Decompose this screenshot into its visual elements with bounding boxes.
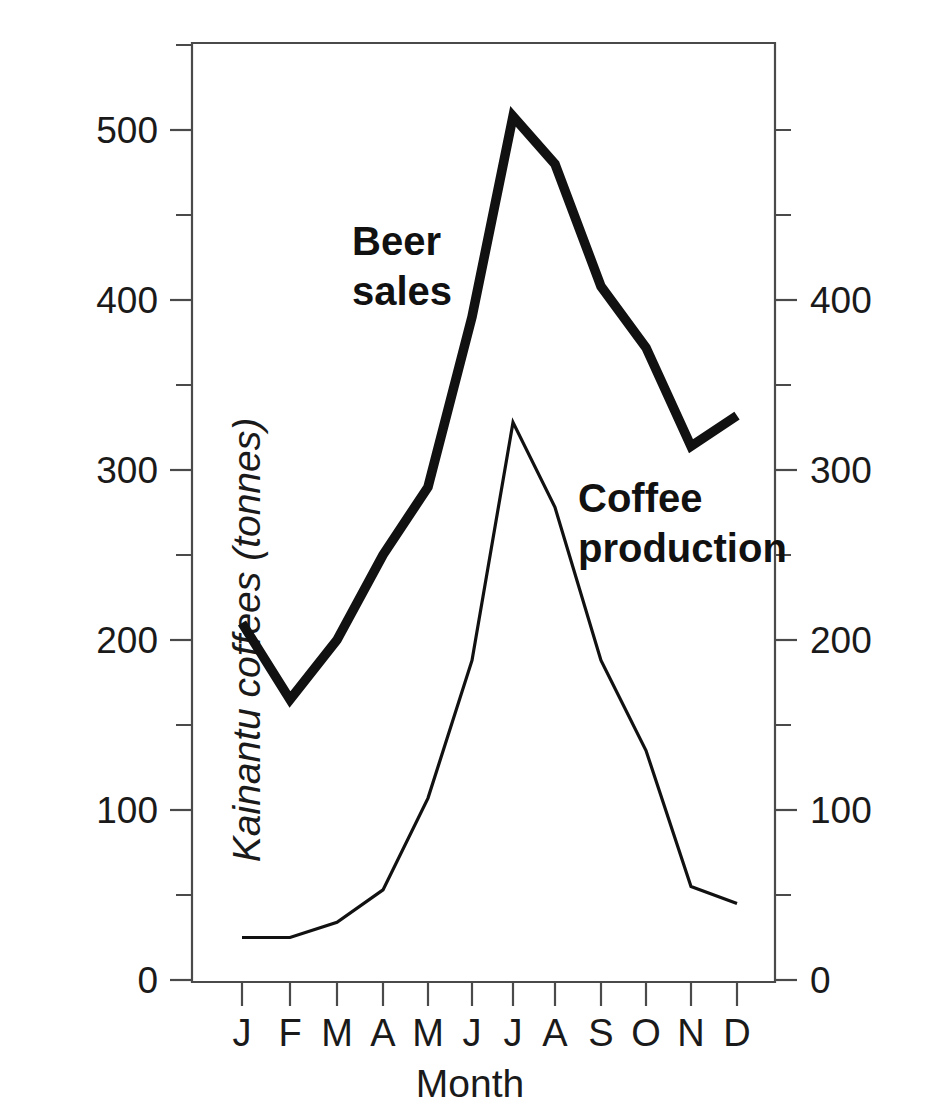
month-label-dec: D <box>723 1012 750 1054</box>
x-axis-month-labels: J F M A M J J A S O N D <box>233 1012 751 1054</box>
left-axis-ticks <box>170 45 192 980</box>
annotation-beer-sales: Beer sales <box>352 219 452 313</box>
right-tick-label-300: 300 <box>810 450 872 491</box>
left-tick-label-200: 200 <box>96 620 158 661</box>
left-tick-label-500: 500 <box>96 110 158 151</box>
month-label-jul: J <box>504 1012 523 1054</box>
month-label-may: M <box>412 1012 444 1054</box>
month-label-jun: J <box>463 1012 482 1054</box>
left-tick-label-100: 100 <box>96 790 158 831</box>
line-chart: 0 100 200 300 400 500 0 100 200 300 <box>0 0 932 1110</box>
month-label-apr: A <box>370 1012 396 1054</box>
left-tick-label-0: 0 <box>137 960 158 1001</box>
right-axis-tick-labels: 0 100 200 300 400 <box>810 280 872 1001</box>
left-tick-label-400: 400 <box>96 280 158 321</box>
right-axis-title: Kainantu coffees (tonnes) <box>225 418 268 862</box>
right-tick-label-200: 200 <box>810 620 872 661</box>
annotation-coffee-line2: production <box>578 526 787 570</box>
x-axis-ticks <box>242 982 737 1006</box>
x-axis-title: Month <box>416 1062 524 1105</box>
annotation-coffee-line1: Coffee <box>578 476 702 520</box>
series-beer-sales <box>242 116 737 699</box>
annotation-beer-line2: sales <box>352 269 452 313</box>
month-label-aug: A <box>542 1012 568 1054</box>
month-label-oct: O <box>631 1012 661 1054</box>
right-tick-label-100: 100 <box>810 790 872 831</box>
chart-container: 0 100 200 300 400 500 0 100 200 300 <box>0 0 932 1110</box>
month-label-nov: N <box>677 1012 704 1054</box>
annotation-coffee-production: Coffee production <box>578 476 787 570</box>
month-label-feb: F <box>278 1012 301 1054</box>
month-label-sep: S <box>588 1012 613 1054</box>
month-label-mar: M <box>321 1012 353 1054</box>
right-tick-label-0: 0 <box>810 960 831 1001</box>
right-tick-label-400: 400 <box>810 280 872 321</box>
annotation-beer-line1: Beer <box>352 219 441 263</box>
month-label-jan: J <box>233 1012 252 1054</box>
left-axis-tick-labels: 0 100 200 300 400 500 <box>96 110 158 1001</box>
left-tick-label-300: 300 <box>96 450 158 491</box>
